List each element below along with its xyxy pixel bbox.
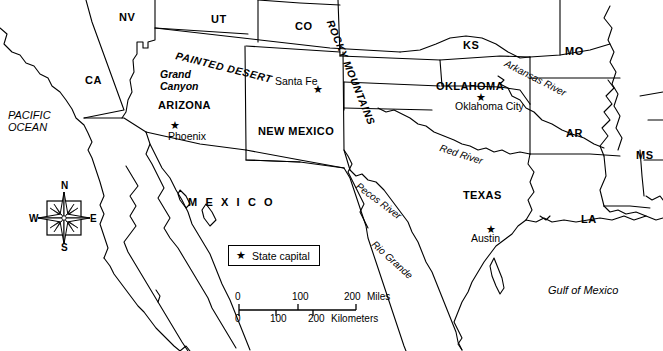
scale-km-tick-100: 100: [270, 313, 287, 324]
map-legend: ★ State capital: [228, 245, 320, 266]
water-label-gulf-of-mexico: Gulf of Mexico: [548, 285, 618, 296]
map-canvas: NV UT CO KS MO CA AR MS LA ARIZONA NEW M…: [0, 0, 663, 351]
az-nm-border: [245, 46, 246, 150]
tx-la-border: [526, 154, 534, 220]
baja-california-west: [104, 258, 180, 351]
state-label-ar: AR: [566, 128, 583, 139]
state-label-co: CO: [295, 21, 313, 32]
scale-km-tick-200: 200: [308, 313, 325, 324]
padre-island: [490, 258, 504, 294]
la-ms-border: [600, 156, 606, 206]
state-label-arizona: ARIZONA: [158, 100, 211, 111]
compass-label-east: E: [90, 213, 97, 224]
water-label-pacific: PACIFIC: [8, 110, 51, 121]
state-label-ut: UT: [211, 14, 227, 25]
co-north-border: [258, 0, 340, 5]
legend-label-state-capital: State capital: [252, 250, 310, 262]
state-label-new-mexico: NEW MEXICO: [258, 126, 334, 137]
la-east-1: [646, 196, 663, 200]
state-label-ca: CA: [85, 75, 102, 86]
state-label-mo: MO: [565, 46, 584, 57]
scale-miles-tick-0: 0: [235, 291, 241, 302]
city-label-santa-fe: Santa Fe: [275, 76, 318, 87]
nm-co-border: [246, 46, 340, 52]
scale-km-tick-0: 0: [235, 313, 241, 324]
feature-label-grand: Grand: [160, 69, 191, 80]
country-label-mexico: M E X I C O: [188, 197, 275, 208]
ar-south-border: [530, 154, 620, 156]
gulf-of-california-east: [146, 144, 236, 348]
nm-border-step: [246, 160, 344, 168]
baja-tip: [180, 346, 190, 351]
scale-unit-miles: Miles: [367, 291, 390, 302]
compass-label-west: W: [29, 213, 38, 224]
ok-panhandle-bottom: [344, 108, 432, 110]
scale-unit-kilometers: Kilometers: [331, 313, 378, 324]
east-edge-2: [640, 92, 663, 96]
state-label-nv: NV: [119, 12, 135, 23]
compass-rose: N S E W: [30, 184, 100, 252]
ms-south-border: [604, 206, 650, 208]
map-scale-bar: 0 100 200 Miles 0 100 200 Kilometers: [237, 291, 365, 325]
mississippi-river-ar: [600, 80, 614, 156]
city-label-austin: Austin: [471, 233, 500, 244]
state-label-oklahoma: OKLAHOMA: [436, 81, 504, 92]
water-label-ocean: OCEAN: [8, 122, 47, 133]
ca-south-border: [84, 118, 146, 132]
state-label-ks: KS: [463, 40, 479, 51]
feature-label-canyon: Canyon: [160, 81, 199, 92]
legend-star-icon: ★: [236, 249, 246, 262]
compass-label-north: N: [61, 180, 68, 191]
state-label-ms: MS: [636, 150, 654, 161]
city-label-phoenix: Phoenix: [168, 131, 206, 142]
ca-nv-border: [84, 0, 124, 118]
scale-miles-tick-100: 100: [292, 291, 309, 302]
scale-miles-tick-200: 200: [344, 291, 361, 302]
city-label-oklahoma-city: Oklahoma City: [455, 101, 524, 112]
state-label-texas: TEXAS: [463, 190, 502, 201]
compass-label-south: S: [61, 242, 68, 253]
state-label-la: LA: [581, 214, 597, 225]
